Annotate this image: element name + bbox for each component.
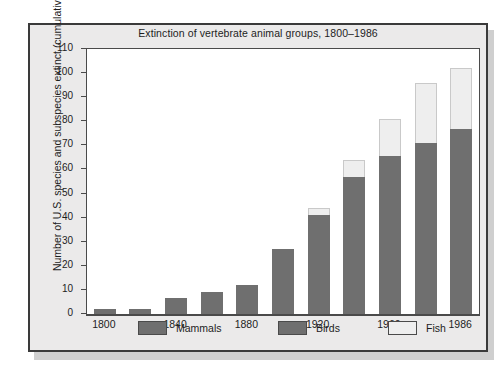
bar-1940 bbox=[343, 160, 365, 314]
bar-1986 bbox=[450, 68, 472, 314]
legend-label-fish: Fish bbox=[426, 322, 446, 334]
legend-item-birds[interactable]: Birds bbox=[278, 321, 340, 335]
y-axis-tick-label: 100 bbox=[39, 67, 73, 77]
bar-1820 bbox=[129, 309, 151, 314]
bar-1880 bbox=[236, 285, 258, 314]
legend-label-birds: Birds bbox=[316, 322, 340, 334]
figure-frame: Extinction of vertebrate animal groups, … bbox=[28, 23, 488, 352]
y-axis-tick-label: 90 bbox=[39, 91, 73, 101]
bar-segment-mammals-birds bbox=[415, 143, 437, 314]
y-axis-tick-label: 20 bbox=[39, 260, 73, 270]
bar-segment-fish bbox=[415, 83, 437, 143]
bar-series-container bbox=[87, 49, 479, 314]
bar-1860 bbox=[201, 292, 223, 314]
chart-title: Extinction of vertebrate animal groups, … bbox=[30, 27, 486, 39]
legend-item-fish[interactable]: Fish bbox=[388, 321, 446, 335]
y-axis-tick-label: 40 bbox=[39, 212, 73, 222]
bar-segment-fish bbox=[308, 208, 330, 215]
plot-area bbox=[86, 48, 480, 314]
bar-segment-mammals-birds bbox=[94, 309, 116, 314]
bar-1920 bbox=[308, 208, 330, 314]
figure-root: Extinction of vertebrate animal groups, … bbox=[0, 0, 501, 372]
bar-1960 bbox=[379, 119, 401, 314]
y-axis-tick-label: 60 bbox=[39, 163, 73, 173]
y-axis-tick-label: 70 bbox=[39, 139, 73, 149]
bar-segment-fish bbox=[450, 68, 472, 128]
bar-segment-mammals-birds bbox=[379, 156, 401, 314]
bar-segment-mammals-birds bbox=[308, 215, 330, 314]
bar-segment-fish bbox=[379, 119, 401, 156]
legend-swatch-birds bbox=[278, 321, 307, 335]
legend-swatch-fish bbox=[388, 321, 417, 335]
bar-segment-mammals-birds bbox=[201, 292, 223, 314]
bar-1900 bbox=[272, 249, 294, 314]
bar-1970 bbox=[415, 83, 437, 314]
legend-swatch-mammals bbox=[138, 321, 167, 335]
legend-item-mammals[interactable]: Mammals bbox=[138, 321, 222, 335]
bar-segment-mammals-birds bbox=[343, 177, 365, 314]
chart-legend: MammalsBirdsFish bbox=[30, 321, 486, 343]
bar-segment-mammals-birds bbox=[236, 285, 258, 314]
bar-segment-mammals-birds bbox=[272, 249, 294, 314]
y-axis-tick-label: 110 bbox=[39, 43, 73, 53]
y-axis-tick-label: 80 bbox=[39, 115, 73, 125]
bar-segment-mammals-birds bbox=[129, 309, 151, 314]
bar-segment-fish bbox=[343, 160, 365, 177]
bar-1800 bbox=[94, 309, 116, 314]
legend-label-mammals: Mammals bbox=[176, 322, 222, 334]
y-axis-tick-label: 30 bbox=[39, 236, 73, 246]
y-axis-tick-label: 50 bbox=[39, 188, 73, 198]
y-axis-tick-label: 10 bbox=[39, 284, 73, 294]
bar-1840 bbox=[165, 298, 187, 314]
bar-segment-mammals-birds bbox=[450, 129, 472, 315]
y-axis-tick-label: 0 bbox=[39, 308, 73, 318]
bar-segment-mammals-birds bbox=[165, 298, 187, 314]
